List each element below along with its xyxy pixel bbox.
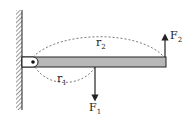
- label-r2: r2: [96, 37, 106, 51]
- beam: [22, 57, 166, 67]
- wall: [16, 10, 22, 110]
- pivot-point-icon: [31, 60, 35, 64]
- pivot: [22, 57, 38, 67]
- label-r1: r1: [57, 73, 67, 87]
- label-f2: F2: [170, 30, 182, 44]
- label-f1: F1: [89, 102, 101, 116]
